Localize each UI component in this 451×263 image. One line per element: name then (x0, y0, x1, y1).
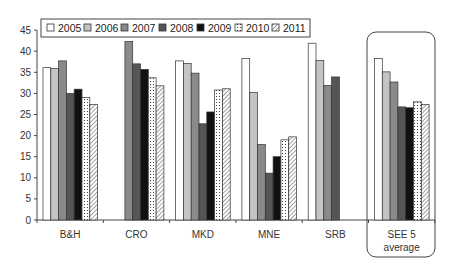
y-tick-label: 15 (20, 151, 32, 162)
y-tick-label: 45 (20, 25, 32, 36)
bar-2011 (222, 89, 230, 220)
legend-swatch-2009 (197, 24, 204, 31)
x-axis: B&HCROMKDMNESRBSEE 5average (37, 220, 435, 253)
y-tick-label: 20 (20, 130, 32, 141)
y-tick-label: 10 (20, 172, 32, 183)
category-label: SEE 5 (387, 229, 416, 240)
bar-2006 (382, 72, 390, 220)
bar-2011 (421, 104, 429, 220)
legend-label: 2006 (95, 22, 119, 34)
y-tick-label: 40 (20, 46, 32, 57)
bar-2010 (148, 78, 156, 220)
legend-swatch-2006 (84, 24, 91, 31)
bar-2009 (273, 157, 281, 220)
bar-2009 (207, 112, 215, 220)
bar-2011 (156, 86, 164, 220)
category-label: MNE (258, 229, 281, 240)
y-tick-label: 30 (20, 88, 32, 99)
legend-label: 2009 (208, 22, 232, 34)
bar-2007 (324, 85, 332, 220)
category-label: B&H (60, 229, 81, 240)
legend-swatch-2005 (47, 24, 54, 31)
bar-2010 (82, 98, 90, 220)
legend-swatch-2010 (235, 24, 242, 31)
bar-2006 (250, 93, 258, 220)
y-tick-label: 5 (25, 193, 31, 204)
bar-2008 (133, 64, 141, 220)
bar-chart: 051015202530354045 B&HCROMKDMNESRBSEE 5a… (0, 0, 451, 263)
bar-2005 (242, 58, 250, 220)
y-axis: 051015202530354045 (20, 25, 37, 226)
category-label: SRB (325, 229, 346, 240)
category-label: CRO (125, 229, 147, 240)
legend-swatch-2007 (121, 24, 128, 31)
bar-2007 (191, 73, 199, 220)
bar-2007 (59, 61, 67, 220)
bar-2010 (215, 90, 223, 220)
bar-2009 (74, 89, 82, 220)
bar-2008 (398, 107, 406, 220)
category-label-sub: average (384, 242, 421, 253)
legend: 2005200620072008200920102011 (41, 19, 310, 37)
bar-2008 (265, 173, 273, 220)
bar-2007 (125, 41, 133, 220)
legend-label: 2008 (170, 22, 194, 34)
legend-label: 2010 (246, 22, 270, 34)
bar-2007 (390, 82, 398, 220)
legend-label: 2011 (283, 22, 306, 34)
bar-2011 (90, 104, 98, 220)
bar-2006 (316, 60, 324, 220)
bar-2008 (332, 77, 340, 220)
bar-2005 (43, 68, 51, 220)
bar-2008 (66, 93, 74, 220)
bar-2008 (199, 124, 207, 220)
legend-swatch-2011 (272, 24, 279, 31)
bars-group (43, 41, 429, 220)
y-tick-label: 35 (20, 67, 32, 78)
bar-2005 (375, 58, 383, 220)
legend-label: 2005 (58, 22, 82, 34)
y-tick-label: 0 (25, 215, 31, 226)
legend-swatch-2008 (159, 24, 166, 31)
bar-2006 (51, 69, 59, 220)
category-label: MKD (192, 229, 214, 240)
legend-label: 2007 (132, 22, 156, 34)
bar-2005 (176, 61, 184, 220)
bar-2009 (406, 108, 414, 220)
y-tick-label: 25 (20, 109, 32, 120)
bar-2006 (183, 63, 191, 220)
bar-2007 (258, 144, 266, 220)
bar-2010 (281, 140, 289, 220)
bar-2009 (141, 69, 149, 220)
bar-2011 (289, 137, 297, 220)
bar-2005 (308, 43, 316, 220)
bar-2010 (414, 102, 422, 220)
